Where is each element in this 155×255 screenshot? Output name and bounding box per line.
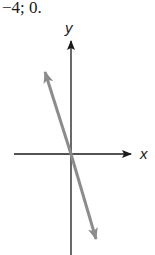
x-axis-label: x bbox=[140, 145, 148, 162]
graphed-line bbox=[45, 72, 71, 154]
y-axis-label: y bbox=[65, 19, 73, 36]
coordinate-graph bbox=[0, 0, 155, 255]
graphed-line-lower bbox=[71, 154, 96, 239]
